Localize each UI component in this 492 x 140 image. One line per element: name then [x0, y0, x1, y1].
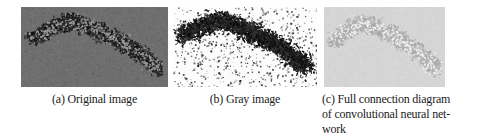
panel-a-caption: (a) Original image: [21, 92, 168, 107]
panel-b-caption: (b) Gray image: [173, 92, 317, 107]
figure-panel-a: (a) Original image: [21, 7, 168, 107]
figure-panel-b: (b) Gray image: [173, 7, 317, 107]
figure-panel-c: (c) Full connection diagram of convoluti…: [324, 7, 445, 137]
panel-c-caption: (c) Full connection diagram of convoluti…: [322, 92, 490, 137]
original-image: [21, 7, 168, 87]
paper-figure: (a) Original image (b) Gray image (c) Fu…: [0, 0, 492, 140]
gray-image: [173, 7, 317, 87]
connection-diagram-image: [324, 7, 445, 87]
